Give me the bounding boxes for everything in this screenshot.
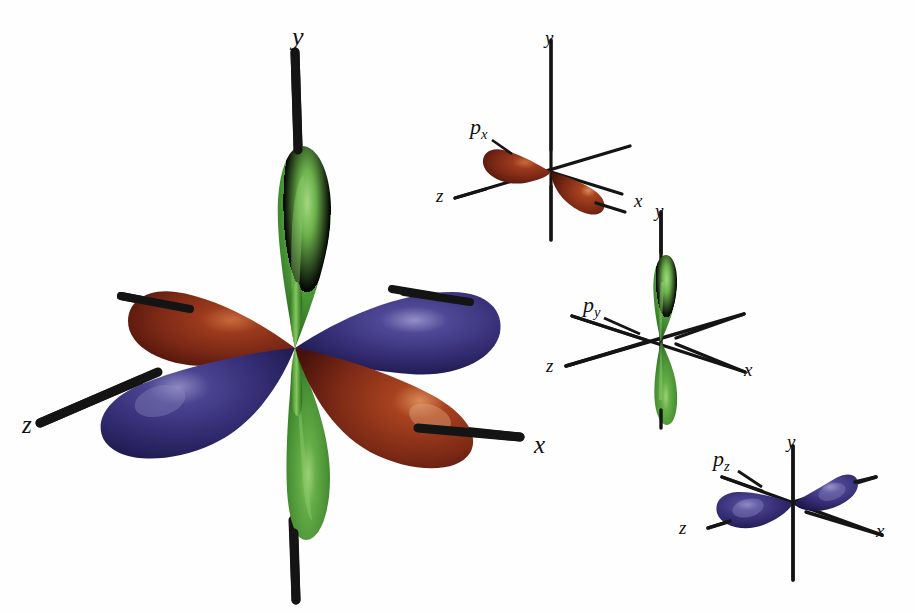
pz-label-base: p xyxy=(713,446,724,471)
pz-axis-label-y: y xyxy=(787,432,795,451)
pz-orbital-label: pz xyxy=(713,448,730,473)
pz-axis-label-x: x xyxy=(876,521,884,540)
pz-panel-svg xyxy=(0,0,915,613)
pz-label-sub: z xyxy=(724,458,730,474)
pz-axis-label-z: z xyxy=(679,518,686,537)
figure-canvas: y z x px y z x xyxy=(0,0,915,613)
